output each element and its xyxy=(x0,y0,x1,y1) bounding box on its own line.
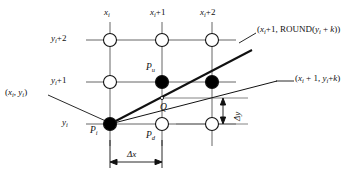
delta-y-arrowhead-bottom xyxy=(220,117,225,124)
callout-origin-label: (xi, yi) xyxy=(5,88,27,97)
ideal-lines xyxy=(110,50,277,124)
delta-y-label: Δy xyxy=(233,112,242,121)
delta-y-arrowhead-top xyxy=(220,98,225,105)
delta-y-dimension xyxy=(220,98,225,124)
ideal-line-exact xyxy=(110,81,277,124)
column-label-xi-plus-2: xi+2 xyxy=(200,8,215,17)
line-scan-conversion-figure: xi xi+1 xi+2 yi+2 yi+1 yi Pu Pi Pd Q (xi… xyxy=(0,0,358,174)
grid-node-filled xyxy=(156,76,169,89)
row-label-yi-plus-2: yi+2 xyxy=(51,34,66,43)
ideal-line-round xyxy=(110,50,252,124)
leader-line-round xyxy=(239,33,256,43)
point-label-pd: Pd xyxy=(146,131,155,141)
grid-node-open xyxy=(104,34,117,47)
row-label-yi: yi xyxy=(62,118,68,127)
grid-node-open xyxy=(104,76,117,89)
delta-x-label: Δx xyxy=(127,150,136,159)
point-label-q: Q xyxy=(160,103,167,113)
row-label-yi-plus-1: yi+1 xyxy=(51,76,66,85)
grid-node-open xyxy=(156,118,169,131)
column-label-xi: xi xyxy=(104,8,110,17)
grid-node-filled xyxy=(206,76,219,89)
callout-exact-label: (xi + 1, yi+k) xyxy=(295,74,340,83)
point-label-pu: Pu xyxy=(146,63,155,73)
grid-node-open xyxy=(156,34,169,47)
grid-node-open xyxy=(206,118,219,131)
grid-node-filled xyxy=(104,118,117,131)
callout-round-label: (xi+1, ROUND(yi + k)) xyxy=(257,25,340,34)
delta-x-arrowhead-right xyxy=(155,159,162,164)
delta-x-arrowhead-left xyxy=(110,159,117,164)
grid-node-open xyxy=(206,34,219,47)
point-label-pi: Pi xyxy=(90,126,98,136)
leader-line-origin xyxy=(48,95,108,122)
intersection-point-q xyxy=(160,96,163,99)
column-label-xi-plus-1: xi+1 xyxy=(150,8,165,17)
